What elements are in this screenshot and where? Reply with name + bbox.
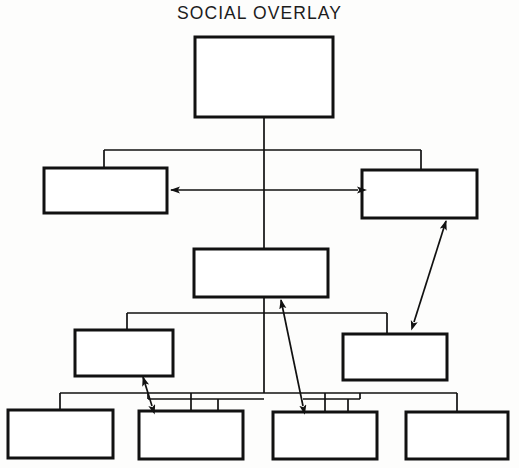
node-box-root[interactable] [195,37,333,117]
node-box-level4-left[interactable] [75,330,173,376]
node-box-level3-center[interactable] [194,249,328,297]
relationship-arrow-level4right-to-level2right[interactable] [414,221,446,322]
diagram-canvas [0,0,519,468]
relationship-arrow-level5-3-to-level3[interactable] [281,300,303,406]
node-box-level5-2[interactable] [139,411,243,459]
social-overlay-diagram: SOCIAL OVERLAY [0,0,519,468]
node-box-level4-right[interactable] [343,334,447,380]
relationship-arrow-level5-2-to-level4left[interactable] [143,377,152,406]
node-box-level5-1[interactable] [8,410,113,458]
node-box-level2-right[interactable] [362,170,477,218]
node-box-level5-3[interactable] [273,412,377,459]
node-box-level2-left[interactable] [44,168,167,213]
node-box-level5-4[interactable] [406,412,508,459]
